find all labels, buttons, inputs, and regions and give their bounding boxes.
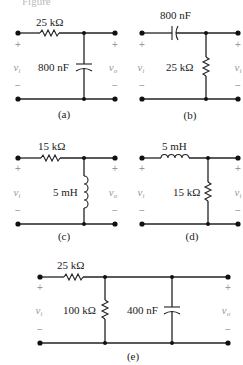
resistor-icon bbox=[205, 182, 211, 201]
terminal-out-bottom bbox=[112, 96, 117, 101]
node bbox=[82, 222, 86, 226]
terminal-in-bottom bbox=[15, 96, 20, 101]
node bbox=[170, 341, 174, 345]
terminal-out-top bbox=[225, 274, 230, 279]
minus-sign: − bbox=[225, 324, 231, 335]
terminal-out-top bbox=[112, 155, 117, 160]
terminal-in-bottom bbox=[15, 221, 20, 226]
inductor-icon bbox=[84, 176, 88, 208]
node bbox=[206, 156, 210, 160]
caption: (e) bbox=[127, 350, 140, 363]
plus-sign: + bbox=[15, 39, 21, 50]
series-label: 25 kΩ bbox=[57, 259, 84, 271]
input-voltage-label: vi bbox=[14, 61, 21, 75]
terminal-out-bottom bbox=[225, 340, 230, 345]
node bbox=[204, 97, 208, 101]
plus-sign: + bbox=[15, 163, 21, 174]
circuit-d: 5 mH 15 kΩ + − + − vi vi (d) bbox=[138, 140, 242, 243]
node bbox=[103, 341, 107, 345]
shunt-label: 800 nF bbox=[38, 61, 69, 73]
shunt2-label: 400 nF bbox=[127, 304, 158, 316]
figure-header-fragment: Figure bbox=[22, 0, 51, 7]
plus-sign: + bbox=[235, 163, 241, 174]
output-voltage-label: vo bbox=[222, 304, 231, 318]
circuit-c: 15 kΩ 5 mH + − + − vi vo (c) bbox=[14, 140, 119, 243]
caption: (b) bbox=[184, 109, 197, 122]
minus-sign: − bbox=[139, 205, 145, 216]
terminal-out-bottom bbox=[235, 96, 240, 101]
caption: (c) bbox=[58, 230, 71, 243]
node bbox=[103, 275, 107, 279]
terminal-out-bottom bbox=[112, 221, 117, 226]
node bbox=[82, 31, 86, 35]
terminal-in-bottom bbox=[139, 96, 144, 101]
output-voltage-label: vo bbox=[109, 186, 118, 200]
node bbox=[204, 31, 208, 35]
plus-sign: + bbox=[112, 39, 118, 50]
resistor-icon bbox=[41, 155, 60, 161]
input-voltage-label: vi bbox=[138, 186, 145, 200]
minus-sign: − bbox=[15, 205, 21, 216]
terminal-out-bottom bbox=[235, 221, 240, 226]
terminal-in-top bbox=[37, 274, 42, 279]
minus-sign: − bbox=[112, 80, 118, 91]
circuit-a: Figure 25 kΩ 800 nF + − + − vi vo (a) bbox=[14, 0, 119, 121]
series-label: 800 nF bbox=[160, 9, 191, 21]
shunt-label: 15 kΩ bbox=[173, 186, 200, 198]
shunt-label: 5 mH bbox=[53, 186, 78, 198]
caption: (d) bbox=[186, 230, 199, 243]
series-label: 25 kΩ bbox=[36, 16, 63, 28]
input-voltage-label: vi bbox=[14, 186, 21, 200]
resistor-icon bbox=[203, 57, 209, 76]
output-voltage-label: vo bbox=[109, 61, 118, 75]
output-voltage-label: vi bbox=[235, 61, 242, 75]
minus-sign: − bbox=[112, 205, 118, 216]
minus-sign: − bbox=[235, 80, 241, 91]
input-voltage-label: vi bbox=[138, 61, 145, 75]
output-voltage-label: vi bbox=[235, 186, 242, 200]
node bbox=[82, 156, 86, 160]
terminal-in-top bbox=[15, 30, 20, 35]
node bbox=[170, 275, 174, 279]
resistor-icon bbox=[40, 30, 59, 36]
plus-sign: + bbox=[235, 39, 241, 50]
plus-sign: + bbox=[37, 282, 43, 293]
circuit-b: 800 nF 25 kΩ + − + − vi vi (b) bbox=[138, 9, 242, 122]
inductor-icon bbox=[161, 155, 189, 158]
plus-sign: + bbox=[225, 282, 231, 293]
terminal-in-top bbox=[139, 155, 144, 160]
shunt-label: 25 kΩ bbox=[166, 61, 193, 73]
terminal-in-top bbox=[15, 155, 20, 160]
series-label: 15 kΩ bbox=[38, 140, 65, 152]
plus-sign: + bbox=[139, 163, 145, 174]
node bbox=[82, 97, 86, 101]
terminal-in-top bbox=[139, 30, 144, 35]
input-voltage-label: vi bbox=[36, 304, 43, 318]
terminal-in-bottom bbox=[139, 221, 144, 226]
circuit-e: 25 kΩ 100 kΩ 400 nF + − + − vi vo (e) bbox=[36, 259, 232, 363]
terminal-out-top bbox=[112, 30, 117, 35]
minus-sign: − bbox=[37, 324, 43, 335]
terminal-out-top bbox=[235, 30, 240, 35]
circuit-figure: Figure 25 kΩ 800 nF + − + − vi vo (a) bbox=[0, 0, 243, 365]
minus-sign: − bbox=[15, 80, 21, 91]
terminal-in-bottom bbox=[37, 340, 42, 345]
node bbox=[206, 222, 210, 226]
minus-sign: − bbox=[139, 80, 145, 91]
series-label: 5 mH bbox=[162, 140, 187, 152]
shunt1-label: 100 kΩ bbox=[63, 304, 96, 316]
caption: (a) bbox=[58, 108, 71, 121]
plus-sign: + bbox=[112, 163, 118, 174]
minus-sign: − bbox=[235, 205, 241, 216]
terminal-out-top bbox=[235, 155, 240, 160]
resistor-icon bbox=[64, 274, 83, 280]
resistor-icon bbox=[102, 300, 108, 319]
plus-sign: + bbox=[139, 39, 145, 50]
